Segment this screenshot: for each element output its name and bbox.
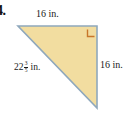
mixed-number-whole: 22 [14,63,24,73]
hypotenuse-unit: in. [31,63,41,73]
hypotenuse-length-label: 22 3 5 in. [14,61,40,74]
right-triangle-figure [0,0,124,116]
fraction-denominator: 5 [24,68,28,74]
right-side-length-label: 16 in. [100,60,123,70]
mixed-number: 22 3 5 [14,61,29,74]
figure-page: 4. 16 in. 16 in. 22 3 5 in. [0,0,124,116]
fraction: 3 5 [24,61,28,74]
fraction-numerator: 3 [24,61,28,67]
top-side-length-label: 16 in. [36,9,59,19]
